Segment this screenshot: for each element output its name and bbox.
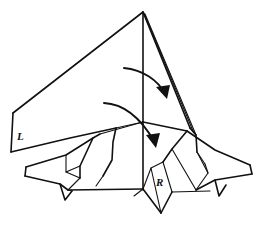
base-line-left [68, 189, 143, 190]
origami-diagram: L R [0, 0, 265, 227]
left-foot-tip-edge [25, 167, 26, 176]
label-R: R [155, 176, 163, 188]
origami-line-drawing: L R [0, 0, 265, 227]
label-L: L [16, 130, 24, 142]
